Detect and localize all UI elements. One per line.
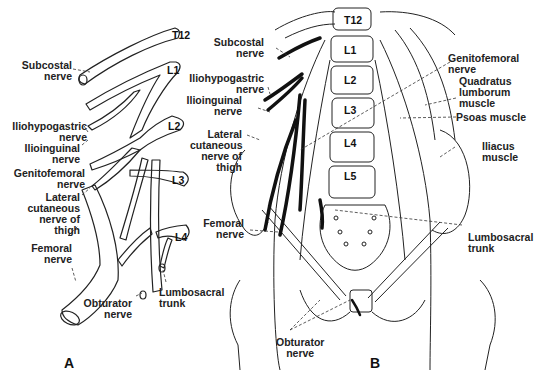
label-b-iliohypogastric-nerve: Iliohypogastric nerve (170, 73, 264, 95)
vertebra-label-l3: L3 (344, 104, 356, 116)
vertebra-label-l5: L5 (344, 170, 356, 182)
label-b-psoas-muscle: Psoas muscle (456, 112, 526, 123)
vertebra-label-l1: L1 (344, 44, 356, 56)
root-label-l3: L3 (172, 174, 184, 186)
vertebra-label-l2: L2 (344, 74, 356, 86)
root-label-t12: T12 (172, 29, 190, 41)
label-b-genitofemoral-nerve: Genitofemoral nerve (448, 53, 519, 75)
label-b-ilioinguinal-nerve: Ilioinguinal nerve (180, 95, 242, 117)
root-label-l4: L4 (175, 231, 187, 243)
label-a-obturator-nerve: Obturator nerve (80, 298, 132, 320)
label-a-femoral-nerve: Femoral nerve (20, 243, 72, 265)
label-a-ilioinguinal-nerve: Ilioinguinal nerve (10, 143, 80, 165)
label-b-femoral-nerve: Femoral nerve (190, 218, 244, 240)
label-b-lateral-cutaneous-nerve: Lateral cutaneous nerve of thigh (190, 129, 242, 173)
label-b-obturator-nerve: Obturator nerve (276, 337, 324, 359)
label-b-quadratus-lumborum-muscle: Quadratus lumborum muscle (459, 76, 512, 109)
label-a-subcostal-nerve: Subcostal nerve (10, 60, 72, 82)
label-a-genitofemoral-nerve: Genitofemoral nerve (0, 168, 85, 190)
label-b-iliacus-muscle: Iliacus muscle (482, 141, 518, 163)
vertebra-label-l4: L4 (344, 137, 356, 149)
panel-letter-b: B (370, 355, 380, 371)
label-a-lateral-cutaneous-nerve: Lateral cutaneous nerve of thigh (20, 192, 80, 236)
label-a-iliohypogastric-nerve: Iliohypogastric nerve (0, 121, 87, 143)
label-a-lumbosacral-trunk: Lumbosacral trunk (159, 287, 224, 309)
panel-letter-a: A (64, 355, 74, 371)
label-b-subcostal-nerve: Subcostal nerve (200, 37, 264, 59)
vertebra-label-t12: T12 (344, 14, 362, 26)
root-label-l2: L2 (168, 120, 180, 132)
label-b-lumbosacral-trunk: Lumbosacral trunk (468, 232, 533, 254)
